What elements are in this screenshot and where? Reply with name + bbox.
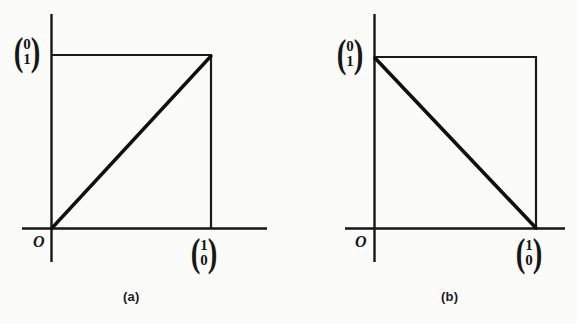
panel-b-drawing [289,0,577,324]
vector-bottom-component: 1 [346,54,354,69]
panel-a: ( 0 1 ) O ( 1 0 ) (a) [0,0,289,324]
left-paren: ( [191,235,201,272]
vector-label-0-1: ( 0 1 ) [335,36,365,73]
panel-b-caption: (b) [441,290,458,303]
vector-bottom-component: 0 [525,253,533,268]
panel-b: ( 0 1 ) O ( 1 0 ) (b) [289,0,577,324]
diagonal-line [375,58,536,228]
figure-container: ( 0 1 ) O ( 1 0 ) (a) [0,0,577,324]
column-vector-values: 0 1 [346,39,354,70]
column-vector-values: 1 0 [200,238,208,269]
origin-label: O [33,234,45,250]
column-vector-values: 1 0 [525,238,533,269]
origin-label: O [355,234,367,250]
right-paren: ) [31,34,41,71]
vector-label-1-0: ( 1 0 ) [189,235,219,272]
vector-top-component: 1 [525,238,533,253]
panel-a-drawing [0,0,289,324]
right-paren: ) [354,36,364,73]
left-paren: ( [337,36,347,73]
left-paren: ( [14,34,24,71]
vector-top-component: 0 [346,39,354,54]
vector-top-component: 1 [200,238,208,253]
right-paren: ) [533,235,543,272]
vector-label-0-1: ( 0 1 ) [12,34,42,71]
right-paren: ) [208,235,218,272]
vector-bottom-component: 0 [200,253,208,268]
vector-top-component: 0 [23,37,31,52]
diagonal-line [52,56,211,228]
vector-bottom-component: 1 [23,52,31,67]
column-vector-values: 0 1 [23,37,31,68]
vector-label-1-0: ( 1 0 ) [514,235,544,272]
panel-a-caption: (a) [123,290,140,303]
left-paren: ( [516,235,526,272]
